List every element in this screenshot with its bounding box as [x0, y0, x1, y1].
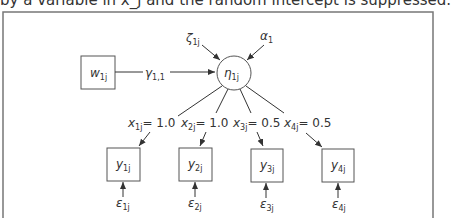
eps4-label: ε4j	[332, 197, 346, 213]
eps1-label: ε1j	[116, 196, 130, 212]
loading-4-arrow	[306, 133, 322, 147]
zeta-arrow	[202, 45, 220, 60]
loading-2-arrow	[200, 132, 206, 146]
loading-4-label: x4j= 0.5	[283, 116, 331, 132]
loading-1-arrow	[139, 132, 150, 146]
loading-1-upper	[178, 86, 222, 116]
loading-2-upper	[216, 89, 228, 113]
loading-3-label: x3j= 0.5	[232, 116, 280, 132]
alpha-label: α1	[260, 29, 273, 45]
loading-4-upper	[246, 86, 284, 113]
alpha-arrow	[247, 45, 264, 60]
loading-1-label: x1j= 1.0	[127, 116, 175, 132]
zeta-label: ζ1j	[185, 31, 200, 47]
figure-frame	[3, 12, 433, 218]
gamma-label: γ1,1	[145, 66, 165, 82]
loading-3-arrow	[257, 132, 263, 146]
eps3-label: ε3j	[260, 197, 274, 213]
loading-2-label: x2j= 1.0	[180, 116, 228, 132]
eps2-label: ε2j	[188, 196, 202, 212]
loading-3-upper	[240, 89, 251, 113]
